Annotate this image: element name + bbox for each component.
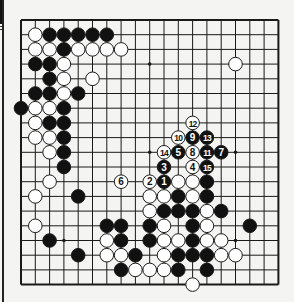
black-stone (200, 263, 214, 277)
white-stone (214, 234, 228, 248)
white-stone (114, 43, 128, 57)
white-stone (57, 72, 71, 86)
white-stone (229, 57, 243, 71)
black-stone (243, 219, 257, 233)
move-number-label: 2 (147, 176, 153, 187)
white-stone (172, 175, 186, 189)
white-stone (157, 219, 171, 233)
move-number-label: 10 (174, 133, 183, 143)
black-stone (86, 28, 100, 42)
white-stone (43, 131, 57, 145)
star-point (234, 151, 238, 155)
white-stone (29, 131, 43, 145)
black-stone (43, 116, 57, 130)
black-stone (29, 57, 43, 71)
white-stone (29, 101, 43, 115)
black-stone (157, 204, 171, 218)
white-stone (186, 278, 200, 292)
white-stone (143, 263, 157, 277)
white-stone (186, 175, 200, 189)
white-stone (100, 234, 114, 248)
move-number-label: 4 (190, 162, 196, 173)
black-stone (71, 248, 85, 262)
white-stone (43, 101, 57, 115)
white-stone (172, 234, 186, 248)
white-stone (29, 43, 43, 57)
black-stone (57, 116, 71, 130)
white-stone (29, 28, 43, 42)
black-stone (186, 234, 200, 248)
move-number-label: 14 (160, 148, 169, 158)
white-stone (57, 57, 71, 71)
black-stone (100, 219, 114, 233)
black-stone (200, 175, 214, 189)
move-number-label: 1 (161, 176, 167, 187)
white-stone (143, 190, 157, 204)
go-board: 121091314581173415621 (0, 0, 294, 302)
white-stone (86, 43, 100, 57)
move-number-label: 9 (190, 132, 196, 143)
star-point (148, 151, 152, 155)
white-stone (200, 219, 214, 233)
star-point (148, 62, 152, 66)
black-stone (43, 28, 57, 42)
star-point (234, 239, 238, 243)
white-stone (29, 116, 43, 130)
move-number-label: 15 (203, 163, 212, 173)
move-number-label: 13 (203, 133, 212, 143)
white-stone (114, 248, 128, 262)
white-stone (200, 234, 214, 248)
move-number-label: 12 (189, 119, 198, 129)
white-stone (229, 248, 243, 262)
white-stone (29, 190, 43, 204)
black-stone (114, 263, 128, 277)
black-stone (57, 28, 71, 42)
black-stone (14, 101, 28, 115)
black-stone (100, 28, 114, 42)
black-stone (172, 204, 186, 218)
white-stone (71, 43, 85, 57)
black-stone (43, 87, 57, 101)
black-stone (57, 160, 71, 174)
black-stone (143, 219, 157, 233)
white-stone (157, 234, 171, 248)
white-stone (200, 204, 214, 218)
black-stone (43, 72, 57, 86)
white-stone (129, 263, 143, 277)
black-stone (214, 204, 228, 218)
black-stone (129, 248, 143, 262)
black-stone (29, 87, 43, 101)
white-stone (43, 146, 57, 160)
move-number-label: 8 (190, 147, 196, 158)
move-number-label: 6 (118, 176, 124, 187)
white-stone (143, 204, 157, 218)
move-number-label: 5 (176, 147, 182, 158)
white-stone (157, 263, 171, 277)
black-stone (172, 190, 186, 204)
white-stone (214, 248, 228, 262)
star-point (62, 239, 66, 243)
white-stone (43, 43, 57, 57)
white-stone (29, 219, 43, 233)
white-stone (157, 248, 171, 262)
black-stone (57, 101, 71, 115)
white-stone (86, 72, 100, 86)
black-stone (57, 131, 71, 145)
black-stone (186, 248, 200, 262)
black-stone (186, 219, 200, 233)
black-stone (43, 57, 57, 71)
black-stone (200, 190, 214, 204)
move-number-label: 11 (203, 148, 211, 158)
black-stone (114, 234, 128, 248)
black-stone (143, 234, 157, 248)
white-stone (186, 190, 200, 204)
white-stone (57, 87, 71, 101)
black-stone (172, 248, 186, 262)
black-stone (71, 28, 85, 42)
white-stone (100, 248, 114, 262)
white-stone (43, 175, 57, 189)
black-stone (200, 248, 214, 262)
white-stone (100, 43, 114, 57)
black-stone (57, 43, 71, 57)
black-stone (71, 87, 85, 101)
